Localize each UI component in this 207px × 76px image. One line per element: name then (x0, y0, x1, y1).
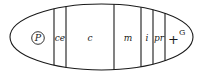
terminal-superscript-label: G (179, 28, 185, 37)
segment-label-c: c (87, 33, 92, 43)
segment-label-m: m (124, 33, 133, 43)
segment-label-i: i (146, 33, 149, 43)
segment-label-pr: pr (154, 33, 165, 43)
segment-label-ce: ce (55, 33, 65, 43)
pole-label: P (34, 32, 42, 43)
plus-marker-icon: + (168, 32, 179, 47)
segmented-ellipse-diagram: P ce c m i pr + G (0, 0, 207, 76)
